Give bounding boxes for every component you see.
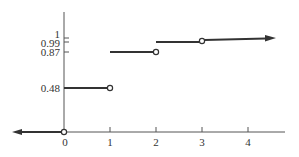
y-label-0.87: 0.87 xyxy=(20,47,60,58)
arrow-right-icon xyxy=(265,35,276,42)
x-label-0: 0 xyxy=(59,137,71,148)
open-circle-2 xyxy=(153,49,158,54)
open-circle-0 xyxy=(61,129,66,134)
open-circle-3 xyxy=(199,38,204,43)
segment-1 xyxy=(205,39,267,41)
x-label-2: 2 xyxy=(150,137,162,148)
x-label-3: 3 xyxy=(196,137,208,148)
arrow-left-icon xyxy=(12,129,22,135)
open-circle-1 xyxy=(107,85,112,90)
y-label-0.48: 0.48 xyxy=(20,83,60,94)
step-function-chart xyxy=(0,0,299,157)
x-label-1: 1 xyxy=(104,137,116,148)
x-label-4: 4 xyxy=(242,137,254,148)
